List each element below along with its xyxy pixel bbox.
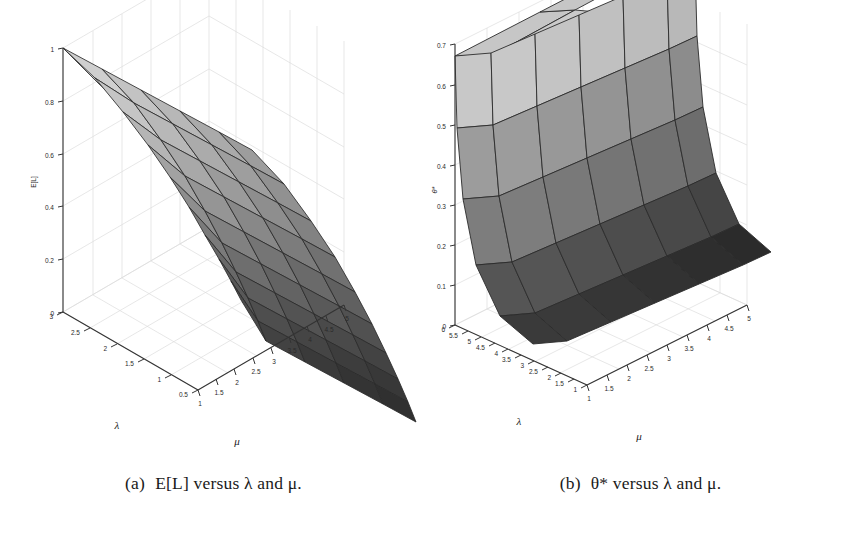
- panel-a-xtick-2: 1.5: [125, 360, 134, 367]
- panel-a-ytick-0: 1: [198, 400, 202, 407]
- panel-a-ytick-1: 1.5: [214, 389, 223, 396]
- panel-a-svg: 0 0.2 0.4 0.6 0.8 1 E[L] 3: [0, 0, 427, 465]
- panel-a-ztick-4: 0.8: [45, 99, 54, 106]
- panel-a-ztick-3: 0.6: [45, 152, 54, 159]
- panel-a-ytick-7: 4.5: [324, 326, 333, 333]
- panel-b-ytick-6: 4: [707, 335, 711, 342]
- panel-a-caption: (a)E[L] versus λ and μ.: [0, 465, 427, 533]
- panel-b-ylabel: μ: [635, 430, 642, 442]
- panel-b-xtick-6: 4: [494, 350, 498, 357]
- panel-b-xtick-10: 6: [441, 326, 445, 333]
- panel-b-caption: (b)θ* versus λ and μ.: [427, 465, 854, 533]
- panel-a-ytick-4: 3: [272, 358, 276, 365]
- panel-b-caption-label: (b): [560, 473, 581, 493]
- panel-a-xtick-1: 1: [157, 376, 161, 383]
- panel-b-ztick-2: 0.2: [437, 243, 446, 250]
- panel-a-xtick-0: 0.5: [179, 391, 188, 398]
- figure-row: 0 0.2 0.4 0.6 0.8 1 E[L] 3: [0, 0, 854, 465]
- panel-a-ytick-5: 3.5: [287, 347, 296, 354]
- panel-b-ytick-8: 5: [747, 315, 751, 322]
- panel-b-xtick-9: 5.5: [449, 332, 458, 339]
- panel-b-zlabel: θ*: [430, 185, 439, 193]
- panel-b-xlabel: λ: [516, 415, 522, 427]
- caption-row: (a)E[L] versus λ and μ. (b)θ* versus λ a…: [0, 465, 854, 533]
- panel-b-ztick-3: 0.3: [437, 203, 446, 210]
- panel-b-plot: 0 0.1 0.2 0.3 0.4 0.5 0.6 0.7 θ*: [427, 0, 854, 465]
- panel-a-plot: 0 0.2 0.4 0.6 0.8 1 E[L] 3: [0, 0, 427, 465]
- panel-b-xtick-4: 3: [520, 362, 524, 369]
- panel-b-xtick-8: 5: [467, 338, 471, 345]
- panel-b-ytick-1: 1.5: [604, 385, 613, 392]
- panel-a-caption-text: E[L] versus λ and μ.: [155, 473, 302, 493]
- panel-b-ztick-5: 0.5: [437, 123, 446, 130]
- panel-a-xtick-4: 2.5: [71, 329, 80, 336]
- panel-b-svg: 0 0.1 0.2 0.3 0.4 0.5 0.6 0.7 θ*: [427, 0, 854, 465]
- panel-a-ztick-2: 0.4: [45, 204, 54, 211]
- panel-b-xtick-7: 4.5: [476, 344, 485, 351]
- panel-b-ytick-3: 2.5: [644, 365, 653, 372]
- panel-b-ytick-2: 2: [627, 375, 631, 382]
- panel-b-ztick-6: 0.6: [437, 83, 446, 90]
- panel-b-xtick-1: 1.5: [555, 380, 564, 387]
- panel-b-xtick-3: 2.5: [529, 368, 538, 375]
- panel-b-ytick-0: 1: [587, 395, 591, 402]
- panel-a-xlabel: λ: [114, 419, 120, 431]
- panel-b-ztick-4: 0.4: [437, 163, 446, 170]
- panel-a-ytick-3: 2.5: [251, 368, 260, 375]
- panel-a-ztick-5: 1: [50, 46, 54, 53]
- panel-a-ylabel: μ: [233, 435, 240, 447]
- panel-b-xtick-2: 2: [547, 374, 551, 381]
- panel-a-ztick-1: 0.2: [45, 257, 54, 264]
- panel-a-zlabel: E[L]: [30, 176, 38, 188]
- panel-a-xtick-5: 3: [49, 313, 53, 320]
- panel-b-ztick-1: 0.1: [437, 283, 446, 290]
- panel-b-xtick-5: 3.5: [502, 356, 511, 363]
- panel-a-ytick-6: 4: [308, 336, 312, 343]
- panel-b-ytick-7: 4.5: [724, 325, 733, 332]
- panel-a-ytick-8: 5: [345, 315, 349, 322]
- panel-b-ztick-7: 0.7: [437, 42, 446, 49]
- panel-a-ytick-2: 2: [235, 379, 239, 386]
- panel-b-ytick-4: 3: [667, 355, 671, 362]
- panel-b-caption-text: θ* versus λ and μ.: [591, 473, 721, 493]
- panel-a-xtick-3: 2: [103, 345, 107, 352]
- panel-b-xtick-0: 1: [573, 386, 577, 393]
- panel-a-caption-label: (a): [125, 473, 145, 493]
- panel-b-ytick-5: 3.5: [684, 345, 693, 352]
